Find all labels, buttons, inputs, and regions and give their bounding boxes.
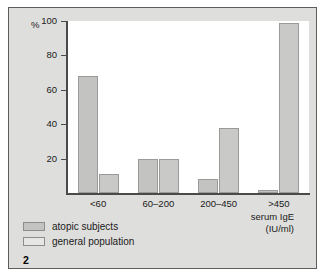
bar-general-population-0 (99, 174, 119, 193)
y-axis-tick-label: 20 (31, 154, 57, 163)
y-axis-tick (61, 55, 66, 56)
legend-item-general-population: general population (23, 234, 134, 249)
legend-label-atopic: atopic subjects (52, 221, 118, 232)
bar-atopic-subjects-1 (138, 159, 158, 193)
bar-atopic-subjects-2 (198, 179, 218, 193)
bar-general-population-2 (219, 128, 239, 193)
y-axis-tick (61, 21, 66, 22)
y-axis-tick (61, 159, 66, 160)
bar-atopic-subjects-3 (258, 190, 278, 193)
chart-panel: % 10080604020 <6060–200200–450>450 serum… (8, 7, 317, 269)
x-axis-line (66, 193, 310, 195)
bar-atopic-subjects-0 (78, 76, 98, 193)
legend-swatch-icon-general (23, 237, 45, 246)
y-axis-tick-label: 80 (31, 50, 57, 59)
y-axis-tick (61, 124, 66, 125)
y-axis-tick-label: 60 (31, 85, 57, 94)
x-axis-title-line1: serum IgE (251, 211, 294, 223)
legend-swatch-icon-atopic (23, 222, 45, 231)
bars-layer (68, 21, 309, 193)
bar-general-population-1 (159, 159, 179, 193)
x-axis-title: serum IgE (IU/ml) (251, 211, 294, 234)
y-axis-tick-label: 40 (31, 119, 57, 128)
y-axis-tick (61, 90, 66, 91)
figure-number: 2 (23, 254, 29, 266)
y-axis-tick-label: 100 (31, 16, 57, 25)
figure-container: % 10080604020 <6060–200200–450>450 serum… (0, 0, 325, 277)
legend-label-general: general population (52, 236, 134, 247)
x-axis-category-label: >450 (239, 198, 319, 209)
x-axis-title-line2: (IU/ml) (251, 223, 294, 235)
legend-item-atopic-subjects: atopic subjects (23, 219, 134, 234)
bar-general-population-3 (279, 23, 299, 193)
legend: atopic subjects general population (23, 219, 134, 249)
